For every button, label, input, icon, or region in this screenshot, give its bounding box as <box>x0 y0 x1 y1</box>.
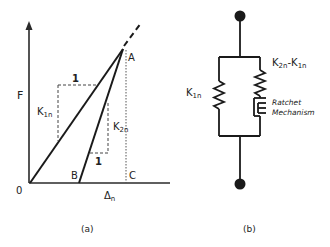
k1n-subscript: 1n <box>44 111 53 119</box>
extension-dashed-line <box>124 23 141 46</box>
k2n-run-label: 1 <box>95 157 102 167</box>
origin-label: 0 <box>16 186 22 196</box>
bottom-node-icon <box>235 179 246 190</box>
delta-symbol: Δ <box>104 190 111 201</box>
k1n-minus-subscript: 1n <box>298 62 307 70</box>
k1n-run-label: 1 <box>72 74 79 84</box>
ratchet-label-line2: Mechanism <box>272 108 315 118</box>
point-a-label: A <box>128 53 135 63</box>
k1n-spring-subscript: 1n <box>193 92 202 100</box>
panel-b-model <box>214 11 266 190</box>
right-spring-label: K2n-K1n <box>272 58 307 70</box>
x-axis-label: Δn <box>104 191 115 203</box>
ratchet-label: Ratchet Mechanism <box>272 98 315 118</box>
k2n-rise-label: K2n <box>113 122 128 134</box>
y-axis-label: F <box>17 90 23 101</box>
delta-subscript: n <box>111 195 115 203</box>
minus-k-symbol: -K <box>287 57 297 68</box>
diagram-canvas <box>0 0 330 247</box>
ratchet-mechanism-icon <box>254 96 266 120</box>
panel-b-caption: (b) <box>243 225 256 234</box>
k2n-subscript: 2n <box>120 126 129 134</box>
y-axis-arrow-icon <box>26 21 33 30</box>
point-c-label: C <box>129 171 136 181</box>
k1n-rise-label: K1n <box>37 107 52 119</box>
left-spring-icon <box>214 81 224 109</box>
ratchet-label-line1: Ratchet <box>272 98 315 108</box>
right-spring-icon <box>255 70 265 96</box>
panel-a-caption: (a) <box>81 225 94 234</box>
point-b-label: B <box>71 171 78 181</box>
left-spring-label: K1n <box>186 88 201 100</box>
